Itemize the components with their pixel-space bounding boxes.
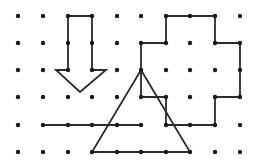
grid-dot	[238, 150, 242, 154]
grid-dot	[41, 41, 45, 45]
grid-dot	[41, 95, 45, 99]
grid-dot	[66, 14, 70, 18]
grid-dot	[41, 68, 45, 72]
grid-dot	[164, 123, 168, 127]
grid-dot	[164, 95, 168, 99]
grid-dot	[213, 123, 217, 127]
grid-dot	[238, 68, 242, 72]
grid-dot	[66, 150, 70, 154]
grid-dot	[164, 14, 168, 18]
grid-dot	[164, 68, 168, 72]
grid-dot	[115, 14, 119, 18]
grid-dot	[115, 41, 119, 45]
grid-dot	[188, 68, 192, 72]
grid-dot	[90, 68, 94, 72]
grid-dot	[90, 95, 94, 99]
grid-dot	[115, 123, 119, 127]
shapes-layer	[43, 16, 240, 152]
grid-dot	[66, 123, 70, 127]
grid-dot	[213, 95, 217, 99]
grid-dot	[188, 14, 192, 18]
grid-dot	[41, 123, 45, 127]
grid-dot	[90, 41, 94, 45]
dot-grid-diagram	[0, 0, 255, 165]
grid-dot	[66, 95, 70, 99]
grid-dot	[115, 150, 119, 154]
grid-dot	[41, 14, 45, 18]
grid-dot	[188, 123, 192, 127]
grid-dot	[188, 95, 192, 99]
grid-dot	[16, 95, 20, 99]
grid-dot	[188, 41, 192, 45]
grid-dot	[238, 41, 242, 45]
grid-dot	[66, 41, 70, 45]
grid-dot	[41, 150, 45, 154]
grid-dot	[139, 150, 143, 154]
grid-dot	[139, 14, 143, 18]
grid-dots	[16, 14, 242, 154]
grid-dot	[90, 150, 94, 154]
grid-dot	[16, 123, 20, 127]
grid-dot	[66, 68, 70, 72]
grid-dot	[238, 95, 242, 99]
grid-dot	[164, 150, 168, 154]
grid-dot	[16, 150, 20, 154]
grid-dot	[115, 95, 119, 99]
grid-dot	[164, 41, 168, 45]
grid-dot	[188, 150, 192, 154]
grid-dot	[139, 95, 143, 99]
grid-dot	[16, 68, 20, 72]
grid-dot	[213, 41, 217, 45]
grid-dot	[213, 150, 217, 154]
grid-dot	[213, 68, 217, 72]
grid-dot	[139, 41, 143, 45]
grid-dot	[139, 68, 143, 72]
down-arrow	[56, 16, 106, 92]
grid-dot	[90, 14, 94, 18]
grid-dot	[16, 14, 20, 18]
grid-dot	[238, 123, 242, 127]
grid-dot	[139, 123, 143, 127]
grid-dot	[238, 14, 242, 18]
grid-dot	[115, 68, 119, 72]
grid-dot	[16, 41, 20, 45]
grid-dot	[213, 14, 217, 18]
grid-dot	[90, 123, 94, 127]
